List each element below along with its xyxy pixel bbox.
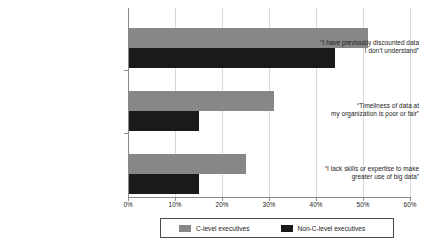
legend-swatch-icon-c-level [179,225,191,232]
y-tick-mark [124,70,128,71]
legend-entry-non-c-level[interactable]: Non-C-level executives [281,219,366,237]
bar-non-c-level-3 [128,174,199,194]
bar-c-level-3 [128,154,246,174]
x-tick-label: 30% [249,201,289,208]
category-label-line: greater use of big data” [295,173,419,181]
category-label-1: “I have previously discounted dataI don’… [295,39,419,56]
x-tick-label: 20% [202,201,242,208]
category-label-line: I don’t understand” [295,47,419,55]
legend-label-non-c-level: Non-C-level executives [298,225,366,232]
category-label-line: my organization is poor or fair” [295,110,419,118]
category-label-line: “I lack skills or expertise to make [295,165,419,173]
x-tick-label: 40% [296,201,336,208]
category-label-2: “Timeliness of data atmy organization is… [295,102,419,119]
legend-label-c-level: C-level executives [196,225,250,232]
y-axis-line [128,8,129,198]
y-tick-mark [124,133,128,134]
bar-non-c-level-2 [128,111,199,131]
legend-swatch-icon-non-c-level [281,225,293,232]
category-label-3: “I lack skills or expertise to makegreat… [295,165,419,182]
bar-c-level-2 [128,91,274,111]
x-tick-label: 10% [155,201,195,208]
x-tick-label: 50% [343,201,383,208]
chart-legend: C-level executives Non-C-level executive… [160,218,394,238]
x-tick-label: 0% [108,201,148,208]
category-label-line: “Timeliness of data at [295,102,419,110]
x-tick-label: 60% [390,201,424,208]
legend-entry-c-level[interactable]: C-level executives [179,219,250,237]
category-label-line: “I have previously discounted data [295,39,419,47]
